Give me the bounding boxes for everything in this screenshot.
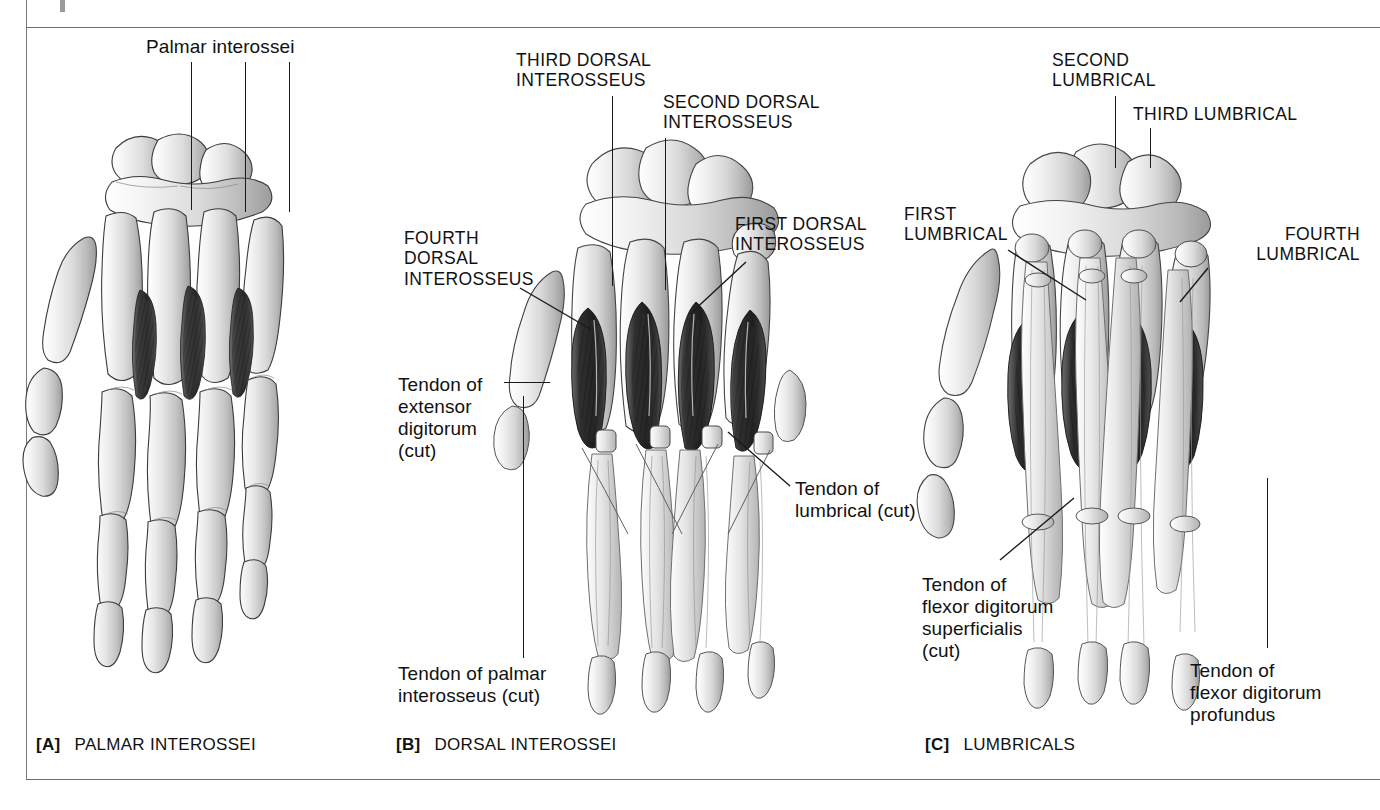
- label-third-lumbrical: THIRD LUMBRICAL: [1133, 104, 1298, 124]
- caption-tag-c: [C]: [925, 735, 950, 754]
- leader-fourth-dorsal-interosseus: [520, 288, 610, 338]
- label-palmar-interossei: Palmar interossei: [146, 36, 294, 58]
- anatomy-plate: Palmar interossei: [0, 0, 1380, 810]
- leader-first-lumbrical: [1008, 250, 1098, 308]
- leader-tendon-of-flexor-digitorum-superficialis: [1000, 498, 1090, 566]
- crop-mark: [60, 0, 65, 12]
- leader-palmar-interossei-1: [191, 62, 192, 210]
- label-first-lumbrical: FIRST LUMBRICAL: [904, 204, 1008, 245]
- leader-second-dorsal-interosseus: [665, 138, 666, 290]
- leader-tendon-of-extensor-digitorum: [504, 382, 550, 383]
- leader-fourth-lumbrical: [1178, 268, 1218, 308]
- leader-tendon-of-lumbrical: [728, 432, 808, 494]
- caption-panel-a: [A]PALMAR INTEROSSEI: [36, 735, 256, 755]
- bottom-rule: [26, 779, 1380, 780]
- label-tendon-of-palmar-interosseus-cut: Tendon of palmar interosseus (cut): [398, 663, 546, 707]
- label-third-dorsal-interosseus: THIRD DORSAL INTEROSSEUS: [516, 50, 651, 91]
- palmar-interossei-svg: [20, 120, 380, 720]
- label-fourth-lumbrical: FOURTH LUMBRICAL: [1174, 224, 1360, 265]
- top-rule: [26, 27, 1380, 28]
- caption-panel-c: [C]LUMBRICALS: [925, 735, 1075, 755]
- hand-illustration-palmar-interossei: [20, 120, 380, 720]
- label-tendon-of-extensor-digitorum-cut: Tendon of extensor digitorum (cut): [398, 374, 482, 462]
- label-second-dorsal-interosseus: SECOND DORSAL INTEROSSEUS: [663, 92, 820, 133]
- leader-tendon-of-flexor-digitorum-profundus: [1267, 478, 1268, 648]
- caption-text-c: LUMBRICALS: [964, 735, 1076, 754]
- caption-panel-b: [B]DORSAL INTEROSSEI: [396, 735, 617, 755]
- label-tendon-of-flexor-digitorum-superficialis-cut: Tendon of flexor digitorum superficialis…: [922, 574, 1053, 662]
- label-tendon-of-flexor-digitorum-profundus: Tendon of flexor digitorum profundus: [1190, 660, 1321, 726]
- caption-tag-a: [A]: [36, 735, 61, 754]
- leader-palmar-interossei-2: [245, 62, 246, 212]
- label-fourth-dorsal-interosseus: FOURTH DORSAL INTEROSSEUS: [404, 228, 534, 289]
- caption-tag-b: [B]: [396, 735, 421, 754]
- caption-text-a: PALMAR INTEROSSEI: [75, 735, 256, 754]
- label-first-dorsal-interosseus: FIRST DORSAL INTEROSSEUS: [735, 214, 867, 255]
- leader-tendon-of-palmar-interosseus: [523, 396, 524, 658]
- caption-text-b: DORSAL INTEROSSEI: [435, 735, 617, 754]
- label-second-lumbrical: SECOND LUMBRICAL: [1052, 50, 1156, 91]
- leader-third-dorsal-interosseus: [612, 96, 613, 286]
- leader-third-lumbrical: [1150, 128, 1151, 168]
- leader-palmar-interossei-3: [289, 62, 290, 212]
- leader-first-dorsal-interosseus: [688, 262, 758, 320]
- leader-second-lumbrical: [1115, 96, 1116, 168]
